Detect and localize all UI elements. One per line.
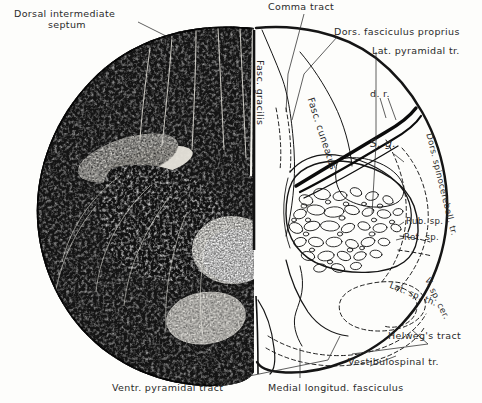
schematic-half — [256, 27, 447, 374]
label-dors-fasciculus-proprius: Dors. fasciculus proprius — [334, 26, 460, 37]
label-vestibulospinal-tr: Vestibulospinal tr. — [348, 356, 439, 367]
photomicrograph-half — [28, 18, 272, 392]
spinal-cord-figure: Dorsal intermediate septum Comma tract D… — [0, 0, 482, 403]
label-medial-longitud-fasciculus: Medial longitud. fasciculus — [268, 382, 403, 393]
cord-outline-right — [256, 27, 447, 372]
label-substantia-gelatinosa: S. g. — [370, 138, 396, 149]
cord-section-drawing — [0, 0, 482, 403]
label-dorsal-root: d. r. — [370, 88, 390, 99]
label-reticulospinal: Ret. sp. — [404, 232, 439, 243]
label-helwegs-tract: Helweg's tract — [388, 330, 461, 341]
label-lat-pyramidal-tr: Lat. pyramidal tr. — [372, 45, 460, 56]
label-comma-tract: Comma tract — [268, 1, 334, 12]
neuron-cell-profiles — [288, 186, 404, 274]
label-dorsal-intermediate-septum: Dorsal intermediate septum — [14, 8, 115, 30]
label-rubrospinal: Rub. sp. — [406, 216, 443, 227]
label-fasc-gracilis: Fasc. gracilis — [255, 60, 266, 125]
substantia-gelatinosa — [336, 158, 404, 207]
label-ventr-pyramidal-tract: Ventr. pyramidal tract — [112, 382, 223, 393]
gray-matter-outline — [286, 161, 418, 272]
medial-longitudinal-fasciculus-line — [294, 266, 302, 346]
